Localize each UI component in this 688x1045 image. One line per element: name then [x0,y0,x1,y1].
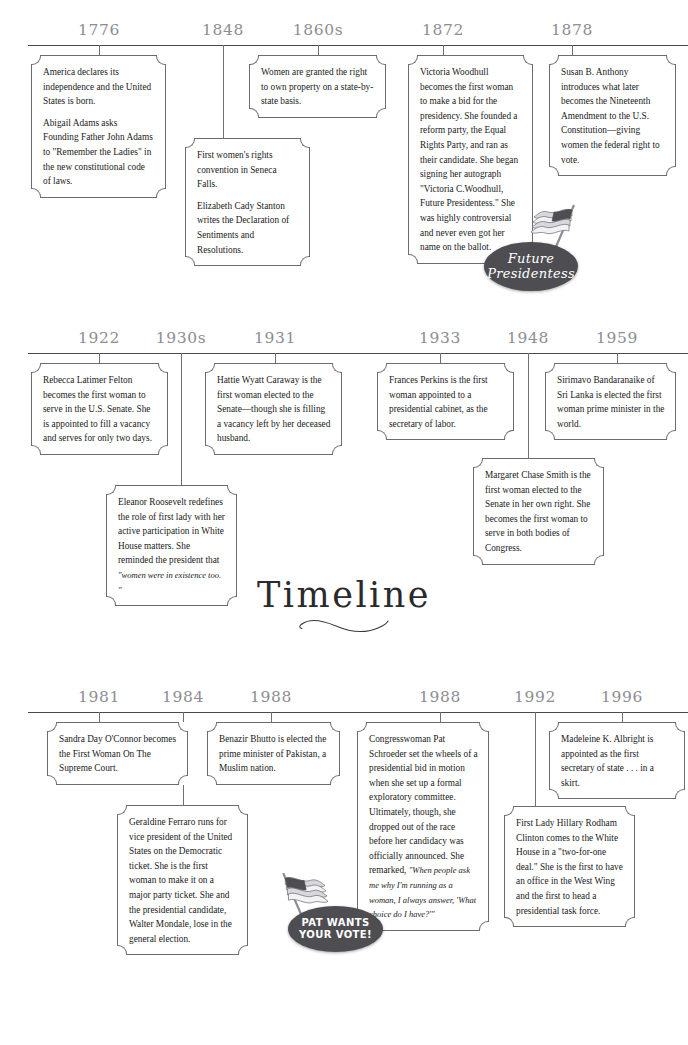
fact-text: Margaret Chase Smith is the first woman … [485,468,593,556]
fact-box: First women's rights convention in Senec… [185,138,310,266]
fact-box: Victoria Woodhull becomes the first woma… [408,55,533,264]
year-label: 1984 [162,688,204,706]
year-label: 1981 [78,688,120,706]
badge-line-2: Presidentess [487,267,575,281]
badge-future-presidentess: Future Presidentess [484,242,578,291]
year-label: 1948 [507,329,549,347]
timeline-axis [28,712,688,713]
year-label: 1930s [156,329,206,347]
fact-text: Sandra Day O'Connor becomes the First Wo… [59,732,177,776]
fact-text: Susan B. Anthony introduces what later b… [561,65,665,167]
year-label: 1992 [514,688,556,706]
fact-box: Madeleine K. Albright is appointed as th… [549,722,685,799]
year-label: 1988 [419,688,461,706]
year-label: 1996 [601,688,643,706]
fact-text: Frances Perkins is the first woman appoi… [389,373,503,431]
flourish-ornament [296,617,392,637]
year-tick [443,45,444,55]
year-tick [572,45,573,55]
timeline-poster: 1776 1848 1860s 1872 1878 America declar… [0,0,688,1045]
fact-box: Congresswoman Pat Schroeder set the whee… [357,722,489,931]
fact-box: Rebecca Latimer Felton becomes the first… [31,363,168,455]
fact-box: Women are granted the right to own prope… [249,55,386,118]
fact-text: Abigail Adams asks Founding Father John … [43,116,155,189]
fact-text: Hattie Wyatt Caraway is the first woman … [217,373,331,446]
year-label: 1933 [419,329,461,347]
year-tick [99,712,100,722]
fact-text: Madeleine K. Albright is appointed as th… [561,732,674,790]
fact-box: Geraldine Ferraro runs for vice presiden… [117,805,248,955]
year-tick [275,353,276,363]
fact-box: Frances Perkins is the first woman appoi… [377,363,514,440]
badge-line-2: YOUR VOTE! [299,929,372,942]
year-label: 1922 [78,329,120,347]
year-tick [535,712,536,806]
year-label: 1860s [293,21,343,39]
year-tick [181,353,182,485]
fact-text: Geraldine Ferraro runs for vice presiden… [129,815,237,946]
year-tick [622,712,623,722]
fact-text: First women's rights convention in Senec… [197,148,299,192]
fact-text: America declares its independence and th… [43,65,155,109]
timeline-axis [28,45,688,46]
poster-title-block: Timeline [0,575,688,637]
year-tick [223,45,224,138]
badge-line-1: Future [487,252,575,266]
year-tick [440,712,441,722]
year-tick [318,45,319,55]
year-label: 1959 [596,329,638,347]
fact-text: Congresswoman Pat Schroeder set the whee… [369,732,478,922]
year-tick [440,353,441,363]
year-tick [617,353,618,363]
fact-box: Sandra Day O'Connor becomes the First Wo… [47,722,188,785]
fact-box: Sirimavo Bandaranaike of Sri Lanka is el… [545,363,676,440]
page-title: Timeline [0,575,688,615]
fact-text: Victoria Woodhull becomes the first woma… [420,65,522,255]
fact-box: First Lady Hillary Rodham Clinton comes … [504,806,635,927]
fact-box: Hattie Wyatt Caraway is the first woman … [205,363,342,455]
year-label: 1776 [78,21,120,39]
year-label: 1872 [422,21,464,39]
fact-box: Susan B. Anthony introduces what later b… [549,55,676,176]
timeline-axis [28,353,688,354]
year-label: 1878 [551,21,593,39]
fact-text: Sirimavo Bandaranaike of Sri Lanka is el… [557,373,665,431]
fact-box: America declares its independence and th… [31,55,166,198]
fact-box: Benazir Bhutto is elected the prime mini… [207,722,340,785]
fact-text: First Lady Hillary Rodham Clinton comes … [516,816,624,918]
fact-text: Benazir Bhutto is elected the prime mini… [219,732,329,776]
year-tick [99,353,100,363]
year-tick [99,45,100,55]
year-label: 1848 [202,21,244,39]
badge-pat-wants-your-vote: PAT WANTS YOUR VOTE! [288,906,383,952]
year-tick [528,353,529,458]
year-tick [271,712,272,722]
badge-line-1: PAT WANTS [299,917,372,930]
fact-text: Rebecca Latimer Felton becomes the first… [43,373,157,446]
fact-box: Margaret Chase Smith is the first woman … [473,458,604,565]
fact-text: Women are granted the right to own prope… [261,65,375,109]
year-label: 1931 [254,329,296,347]
year-label: 1988 [250,688,292,706]
fact-text: Elizabeth Cady Stanton writes the Declar… [197,199,299,257]
